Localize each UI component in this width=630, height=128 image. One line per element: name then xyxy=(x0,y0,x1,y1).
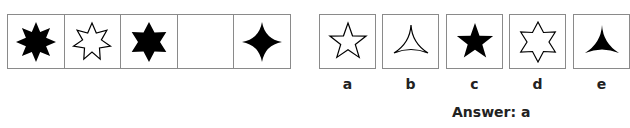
option-e-box[interactable] xyxy=(573,14,630,69)
three-point-star-outline-icon xyxy=(389,20,433,64)
option-e-label: e xyxy=(573,76,630,92)
sequence-cell-5 xyxy=(234,15,290,68)
sequence-cell-1 xyxy=(8,15,65,68)
six-point-star-filled-icon xyxy=(127,20,171,64)
eight-point-star-filled-icon xyxy=(14,20,58,64)
option-c-label: c xyxy=(446,76,503,92)
option-b-box[interactable] xyxy=(382,14,439,69)
five-point-star-outline-icon xyxy=(326,20,370,64)
option-b-label: b xyxy=(382,76,439,92)
sequence-cell-3 xyxy=(121,15,178,68)
sequence-cell-4-empty xyxy=(178,15,235,68)
sequence-cell-2 xyxy=(65,15,122,68)
five-point-star-filled-icon xyxy=(453,20,497,64)
seven-point-star-outline-icon xyxy=(70,20,114,64)
option-d-box[interactable] xyxy=(509,14,566,69)
six-point-star-outline-icon xyxy=(516,20,560,64)
option-a-box[interactable] xyxy=(319,14,376,69)
option-c-box[interactable] xyxy=(446,14,503,69)
three-point-star-filled-icon xyxy=(580,20,624,64)
four-point-star-filled-icon xyxy=(240,20,284,64)
option-d-label: d xyxy=(509,76,566,92)
option-a-label: a xyxy=(319,76,376,92)
answer-text: Answer: a xyxy=(452,104,530,120)
sequence-strip xyxy=(7,14,291,69)
